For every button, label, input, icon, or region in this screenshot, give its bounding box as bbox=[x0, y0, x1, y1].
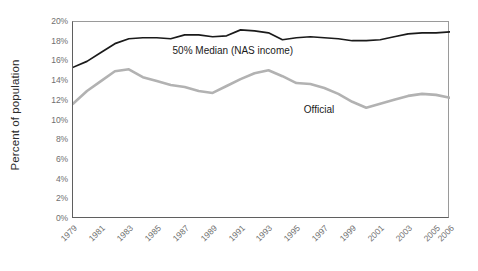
x-axis-tick-labels: 1979198119831985198719891991199319951997… bbox=[0, 0, 478, 271]
series-annotation-median: 50% Median (NAS income) bbox=[173, 45, 294, 56]
poverty-rate-line-chart: Percent of population 20%18%16%14%12%10%… bbox=[0, 0, 478, 271]
series-annotation-official: Official bbox=[304, 104, 334, 115]
